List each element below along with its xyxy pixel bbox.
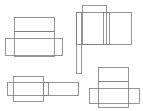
net-face xyxy=(8,83,79,96)
net-face xyxy=(77,13,82,74)
diagram-canvas xyxy=(0,0,143,111)
net-face xyxy=(15,18,55,32)
net-face xyxy=(15,32,55,57)
net-face xyxy=(99,68,129,82)
net-face xyxy=(14,77,44,102)
net-face xyxy=(6,39,63,56)
net-face xyxy=(90,89,140,104)
net-bottom-left xyxy=(8,77,79,102)
net-face xyxy=(77,13,132,45)
net-top-left xyxy=(6,18,63,57)
net-bottom-right xyxy=(90,68,140,108)
net-face xyxy=(44,83,49,96)
net-top-right xyxy=(77,6,132,74)
net-face xyxy=(83,6,107,45)
